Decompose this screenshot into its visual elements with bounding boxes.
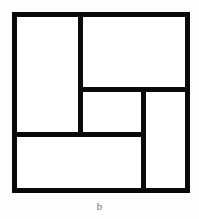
figure-caption: b (0, 199, 199, 213)
figure-container: b (0, 0, 199, 219)
dissection-svg (0, 0, 199, 200)
outer-square-frame (15, 15, 188, 191)
square-dissection-diagram (0, 0, 199, 200)
